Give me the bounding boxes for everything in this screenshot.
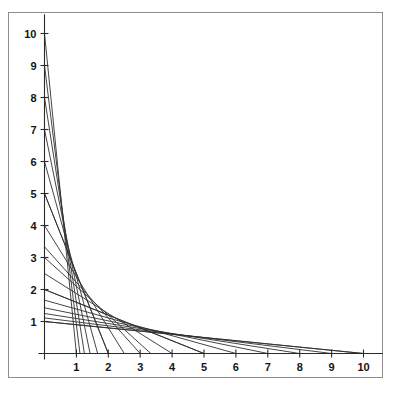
x-tick-label: 8 xyxy=(297,361,303,373)
y-tick-label: 8 xyxy=(30,92,36,104)
y-tick-label: 6 xyxy=(30,156,36,168)
segment-diag-9-1 xyxy=(45,318,332,354)
x-tick-label: 1 xyxy=(73,361,79,373)
segment-k10 xyxy=(45,34,77,354)
segment-diag-2-5 xyxy=(45,194,109,354)
y-tick-label: 1 xyxy=(30,316,36,328)
x-tick-label: 9 xyxy=(329,361,335,373)
envelope-line-group xyxy=(45,34,364,354)
y-tick-label: 9 xyxy=(30,60,36,72)
y-tick-label: 5 xyxy=(30,188,36,200)
tick-mark-group xyxy=(41,34,364,358)
plot-canvas: 1234567891012345678910 xyxy=(0,0,396,394)
x-tick-label: 2 xyxy=(105,361,111,373)
x-tick-label: 10 xyxy=(357,361,369,373)
figure-root: 1234567891012345678910 xyxy=(0,0,396,394)
segment-diag-6-1 xyxy=(45,300,236,353)
x-tick-label: 5 xyxy=(201,361,207,373)
x-tick-label: 6 xyxy=(233,361,239,373)
segment-k6 xyxy=(45,162,98,354)
segment-k4 xyxy=(45,226,125,354)
y-tick-label: 3 xyxy=(30,252,36,264)
x-tick-label: 3 xyxy=(137,361,143,373)
segment-diag-5-2 xyxy=(45,290,205,354)
y-tick-label: 10 xyxy=(24,28,36,40)
x-tick-label: 4 xyxy=(169,361,176,373)
y-tick-label: 2 xyxy=(30,284,36,296)
y-tick-label: 7 xyxy=(30,124,36,136)
y-tick-label: 4 xyxy=(30,220,37,232)
segment-diag-3-3 xyxy=(45,247,141,354)
segment-diag-4-2 xyxy=(45,274,173,354)
x-tick-label: 7 xyxy=(265,361,271,373)
